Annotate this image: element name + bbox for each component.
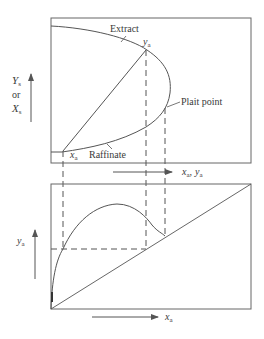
plait-point-pointer xyxy=(167,102,180,107)
distribution-curve xyxy=(51,204,165,309)
xa-label: xa xyxy=(69,149,78,162)
top-x-axis-label: xa,ya xyxy=(181,166,204,179)
svg-text:or: or xyxy=(12,89,21,100)
diagonal-line xyxy=(51,184,251,309)
raffinate-label: Raffinate xyxy=(89,149,127,160)
extract-label: Extract xyxy=(110,23,139,34)
bottom-panel: ya xa xyxy=(16,184,251,324)
bottom-x-axis-label: xa xyxy=(164,311,173,324)
plait-point-label: Plait point xyxy=(181,96,223,107)
tie-line xyxy=(63,50,146,151)
top-frame xyxy=(51,18,251,163)
ya-label: ya xyxy=(142,36,151,49)
extract-pointer xyxy=(121,36,126,42)
top-panel: Extract ya Plait point Raffinate xa Ys o… xyxy=(11,18,251,249)
bottom-y-axis-label: ya xyxy=(16,235,25,248)
svg-text:Xs: Xs xyxy=(11,102,22,116)
binodal-curve xyxy=(51,26,170,152)
top-y-axis-label: Ys or Xs xyxy=(11,74,22,116)
liquid-liquid-equilibrium-diagram: Extract ya Plait point Raffinate xa Ys o… xyxy=(0,0,264,339)
svg-text:Ys: Ys xyxy=(12,74,21,88)
